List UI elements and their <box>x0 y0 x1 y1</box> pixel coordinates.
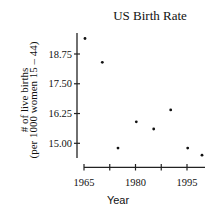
plot-area: 15.0016.2517.5018.75196519801995 <box>0 0 216 216</box>
x-tick-label: 1965 <box>74 177 95 188</box>
x-tick-label: 1995 <box>177 177 198 188</box>
data-point <box>169 109 172 112</box>
x-tick-label: 1980 <box>125 177 146 188</box>
y-tick-label: 15.00 <box>48 138 72 149</box>
y-tick-label: 17.50 <box>48 78 72 89</box>
y-tick-label: 18.75 <box>48 49 72 60</box>
scatter-chart: US Birth Rate # of live births (per 1000… <box>0 0 216 216</box>
data-point <box>117 147 120 150</box>
data-point <box>152 128 155 131</box>
data-point <box>201 154 204 157</box>
data-point <box>101 61 104 64</box>
data-point <box>135 120 138 123</box>
y-tick-label: 16.25 <box>48 108 72 119</box>
data-point <box>84 37 87 40</box>
data-point <box>186 147 189 150</box>
